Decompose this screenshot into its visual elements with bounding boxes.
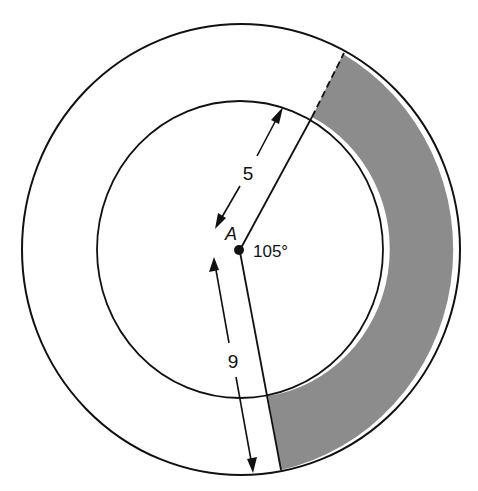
label-5: 5 xyxy=(243,163,254,184)
concentric-circles-diagram: 5 9 A 105° xyxy=(0,0,478,491)
shaded-ring-sector xyxy=(268,54,453,470)
label-angle-105: 105° xyxy=(253,242,288,261)
label-center-a: A xyxy=(224,224,237,244)
label-9: 9 xyxy=(228,351,239,372)
center-point xyxy=(234,245,244,255)
